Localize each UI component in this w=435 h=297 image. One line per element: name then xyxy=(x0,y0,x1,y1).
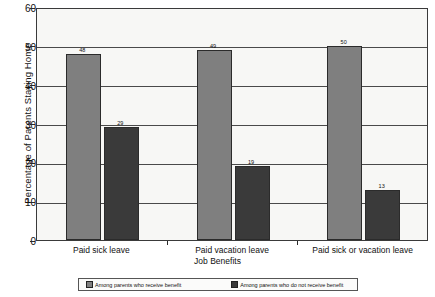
bar-0-1 xyxy=(104,127,139,240)
x-tick-mark xyxy=(297,241,298,245)
bar-value-label: 50 xyxy=(341,39,347,45)
bar-0-0 xyxy=(66,54,101,240)
legend-entry-0: Among parents who receive benefit xyxy=(86,281,181,288)
legend-entry-1: Among parents who do not receive benefit xyxy=(231,281,343,288)
bar-2-1 xyxy=(365,190,400,240)
y-tick-mark xyxy=(30,124,35,125)
y-tick-mark xyxy=(30,85,35,86)
x-category-label: Paid vacation leave xyxy=(195,245,269,255)
legend-swatch-series-0 xyxy=(86,281,93,288)
chart-legend: Among parents who receive benefit Among … xyxy=(78,278,358,291)
y-tick-mark xyxy=(30,46,35,47)
legend-label-series-1: Among parents who do not receive benefit xyxy=(240,282,343,288)
bar-chart: Percentage of Parents Staying Home 01020… xyxy=(0,0,435,297)
y-tick-mark xyxy=(30,163,35,164)
y-tick-mark xyxy=(30,202,35,203)
y-tick-mark xyxy=(30,8,35,9)
x-axis-title: Job Benefits xyxy=(0,256,435,266)
y-tick-mark xyxy=(30,241,35,242)
bar-value-label: 19 xyxy=(248,159,254,165)
x-category-label: Paid sick or vacation leave xyxy=(312,245,413,255)
x-category-label: Paid sick leave xyxy=(73,245,130,255)
bar-value-label: 13 xyxy=(379,183,385,189)
plot-area xyxy=(36,8,428,241)
legend-label-series-0: Among parents who receive benefit xyxy=(95,282,181,288)
bar-value-label: 49 xyxy=(210,43,216,49)
bar-value-label: 29 xyxy=(117,120,123,126)
x-tick-mark xyxy=(167,241,168,245)
bar-2-0 xyxy=(327,46,362,240)
bar-1-1 xyxy=(235,166,270,240)
bar-value-label: 48 xyxy=(79,47,85,53)
legend-swatch-series-1 xyxy=(231,281,238,288)
y-axis: 0102030405060 xyxy=(0,8,36,241)
gridline xyxy=(37,47,427,48)
bar-1-0 xyxy=(197,50,232,240)
